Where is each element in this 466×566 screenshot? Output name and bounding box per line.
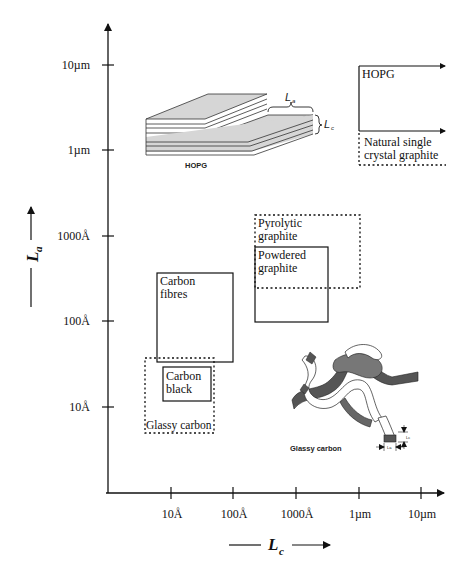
y-tick-label: 1µm bbox=[68, 143, 91, 157]
y-tick-label: 10µm bbox=[62, 58, 91, 72]
x-tick-label: 10Å bbox=[162, 507, 183, 521]
region-label-hopg: HOPG bbox=[362, 68, 395, 81]
x-axis: 10Å 100Å 1000Å 1µm 10µm bbox=[106, 487, 444, 521]
hopg-lc-sub: c bbox=[331, 125, 334, 131]
y-tick-label: 10Å bbox=[69, 400, 90, 414]
x-axis-title: L c bbox=[229, 535, 330, 557]
hopg-la-sub: a bbox=[292, 98, 296, 104]
hopg-lc-label: L bbox=[324, 118, 330, 130]
glassy-la-label: La bbox=[387, 445, 392, 450]
x-axis-title-sub: c bbox=[279, 545, 284, 557]
y-axis-title: L a bbox=[23, 207, 44, 307]
hopg-illustration: L a L c bbox=[146, 91, 334, 155]
x-tick-label: 1000Å bbox=[281, 507, 314, 521]
y-tick-label: 1000Å bbox=[57, 229, 90, 243]
region-label-pyrolytic-graphite: Pyrolytic graphite bbox=[258, 217, 302, 243]
glassy-carbon-illustration: Lc La bbox=[292, 345, 418, 452]
la-brace bbox=[268, 102, 313, 112]
x-axis-title-main: L bbox=[267, 535, 278, 554]
y-tick-label: 100Å bbox=[63, 314, 90, 328]
region-label-glassy-carbon: Glassy carbon bbox=[146, 419, 211, 432]
hopg-la-label: L bbox=[285, 91, 291, 103]
lc-brace bbox=[315, 115, 322, 134]
diagram-canvas: 10µm 1µm 1000Å 100Å 10Å L a 10Å 100Å 100… bbox=[0, 0, 466, 566]
x-tick-label: 10µm bbox=[408, 507, 437, 521]
region-label-carbon-black: Carbon black bbox=[166, 370, 201, 396]
glassy-illustration-caption: Glassy carbon bbox=[290, 444, 342, 453]
x-tick-label: 1µm bbox=[349, 507, 372, 521]
y-axis-title-main: L bbox=[23, 252, 42, 263]
y-axis-title-sub: a bbox=[32, 246, 44, 252]
hopg-lower-stack bbox=[146, 115, 313, 155]
region-label-powdered-graphite: Powdered graphite bbox=[258, 249, 306, 275]
y-axis: 10µm 1µm 1000Å 100Å 10Å bbox=[57, 24, 114, 493]
hopg-illustration-caption: HOPG bbox=[185, 161, 207, 170]
glassy-lc-label: Lc bbox=[406, 435, 410, 440]
region-label-natural-single-crystal: Natural single crystal graphite bbox=[364, 136, 438, 162]
region-label-carbon-fibres: Carbon fibres bbox=[160, 275, 195, 301]
x-tick-label: 100Å bbox=[221, 507, 248, 521]
